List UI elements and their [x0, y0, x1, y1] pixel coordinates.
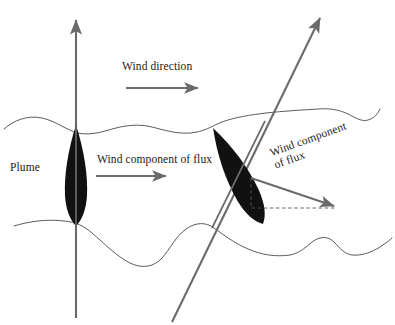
- label-wind-component-of-flux: Wind component of flux: [97, 153, 212, 166]
- wind-flux-plume-diagram: Plume Wind direction Wind component of f…: [0, 0, 395, 325]
- label-plume: Plume: [10, 161, 40, 174]
- diagonal-arrow-wind-component-flux: [251, 178, 334, 206]
- label-wind-direction: Wind direction: [122, 60, 192, 73]
